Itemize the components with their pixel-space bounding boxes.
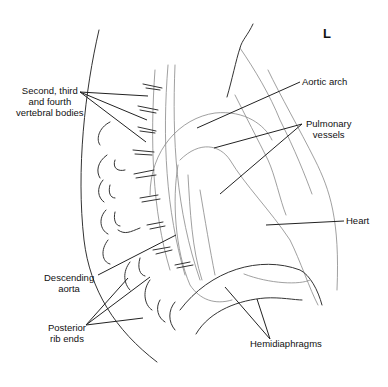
label-line: Second, third [16,85,84,96]
label-line: aorta [44,283,94,294]
label-line: Posterior [48,322,86,333]
label-line: rib ends [48,333,86,344]
label-descending-aorta: Descending aorta [44,272,94,294]
label-vertebral-bodies: Second, third and fourth vertebral bodie… [16,85,84,118]
label-line: Pulmonary [306,118,351,129]
label-line: and fourth [16,96,84,107]
orientation-marker-left: L [323,26,331,41]
label-hemidiaphragms: Hemidiaphragms [250,338,322,349]
leader-lines [80,82,344,339]
label-line: vessels [306,129,351,140]
label-heart: Heart [346,215,369,226]
label-line: vertebral bodies [16,107,84,118]
label-aortic-arch: Aortic arch [302,76,347,87]
label-pulmonary-vessels: Pulmonary vessels [306,118,351,140]
right-hemidiaphragm [196,298,302,334]
label-posterior-rib-ends: Posterior rib ends [48,322,86,344]
posterior-chest-wall [81,30,157,362]
left-hemidiaphragm [180,264,322,310]
label-line: Descending [44,272,94,283]
vertebral-endplates [133,84,193,268]
